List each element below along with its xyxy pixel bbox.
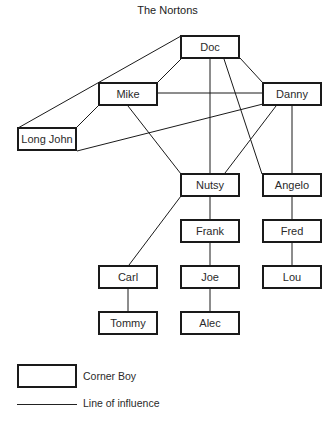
edge-mike-longjohn	[76, 105, 99, 128]
legend-line-label: Line of influence	[83, 397, 159, 409]
node-tommy: Tommy	[98, 311, 158, 335]
node-label: Nutsy	[196, 179, 224, 191]
node-mike: Mike	[98, 82, 158, 106]
node-label: Alec	[199, 317, 220, 329]
node-label: Doc	[200, 41, 220, 53]
node-label: Danny	[276, 88, 308, 100]
node-doc: Doc	[180, 35, 240, 59]
node-fred: Fred	[262, 219, 322, 243]
node-label: Long John	[21, 133, 72, 145]
edge-nutsy-carl	[129, 196, 181, 265]
node-nutsy: Nutsy	[180, 173, 240, 197]
node-label: Frank	[196, 225, 224, 237]
edge-danny-nutsy	[225, 106, 276, 173]
node-longjohn: Long John	[17, 127, 77, 151]
node-label: Tommy	[110, 317, 145, 329]
node-lou: Lou	[262, 265, 322, 289]
legend-corner-boy-label: Corner Boy	[83, 370, 136, 382]
node-label: Mike	[116, 88, 139, 100]
node-label: Carl	[118, 271, 138, 283]
edge-doc-danny	[240, 58, 263, 83]
node-alec: Alec	[180, 311, 240, 335]
node-angelo: Angelo	[262, 173, 322, 197]
node-joe: Joe	[180, 265, 240, 289]
node-label: Joe	[201, 271, 219, 283]
legend-corner-boy-swatch	[17, 364, 77, 388]
edge-mike-nutsy	[128, 106, 181, 174]
edge-doc-mike	[157, 58, 182, 83]
node-label: Fred	[281, 225, 304, 237]
node-label: Angelo	[275, 179, 309, 191]
node-frank: Frank	[180, 219, 240, 243]
diagram-canvas: The Nortons	[0, 0, 335, 424]
node-danny: Danny	[262, 82, 322, 106]
influence-lines	[0, 0, 335, 424]
node-label: Lou	[283, 271, 301, 283]
node-carl: Carl	[98, 265, 158, 289]
edge-danny-longjohn	[77, 104, 263, 151]
legend-line-swatch	[17, 404, 77, 405]
